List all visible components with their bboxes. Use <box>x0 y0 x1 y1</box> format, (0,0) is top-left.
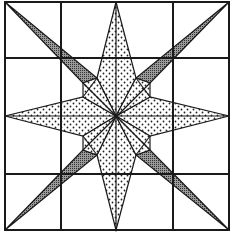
quilt-star-diagram <box>0 0 233 244</box>
